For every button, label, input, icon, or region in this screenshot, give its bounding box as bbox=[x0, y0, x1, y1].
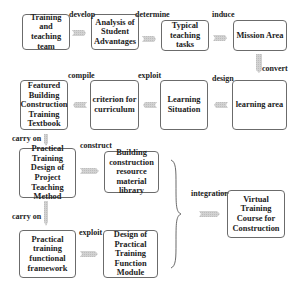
arrow-down-icon bbox=[44, 201, 48, 226]
arrow-down-icon bbox=[256, 54, 262, 73]
arrow-right-icon bbox=[199, 211, 220, 217]
arrow-right-icon bbox=[80, 251, 98, 257]
arrows-layer bbox=[0, 0, 296, 289]
brace-icon bbox=[171, 160, 181, 268]
arrow-right-icon bbox=[213, 35, 227, 41]
arrow-down-icon bbox=[44, 134, 48, 146]
arrow-right-icon bbox=[72, 30, 86, 36]
arrow-left-icon bbox=[214, 102, 228, 108]
arrow-right-icon bbox=[80, 168, 99, 174]
arrow-left-icon bbox=[143, 102, 157, 108]
arrow-right-icon bbox=[142, 36, 156, 42]
arrow-left-icon bbox=[73, 102, 87, 108]
